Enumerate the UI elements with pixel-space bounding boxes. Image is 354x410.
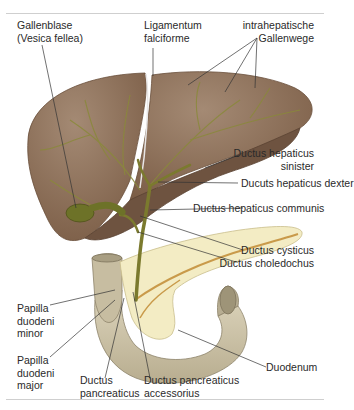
label-line: Ductus pancreaticus [144, 374, 239, 387]
label-line: Gallenblase [17, 19, 83, 32]
label-line: duodeni [17, 315, 54, 328]
label-papilla-duodeni-minor: Papilla duodeni minor [17, 302, 54, 340]
label-line: Papilla [17, 354, 54, 367]
label-line: duodeni [17, 367, 54, 380]
label-line: Ductus [80, 374, 140, 387]
label-ductus-pancreaticus: Ductus pancreaticus [80, 374, 140, 399]
label-ductus-choledochus: Ductus choledochus [219, 257, 314, 270]
label-intrahepatische-gallenwege: intrahepatische Gallenwege [243, 19, 314, 44]
label-line: major [17, 379, 54, 392]
label-ductus-cysticus: Ductus cysticus [241, 244, 314, 257]
label-line: Ligamentum [144, 19, 202, 32]
label-ligamentum-falciforme: Ligamentum falciforme [144, 19, 202, 44]
label-duodenum: Duodenum [266, 361, 317, 374]
label-gallenblase: Gallenblase (Vesica fellea) [17, 19, 83, 44]
label-line: (Vesica fellea) [17, 32, 83, 45]
label-ductus-hepaticus-communis: Ductus hepaticus communis [193, 202, 324, 215]
label-line: accessorius [144, 387, 239, 400]
label-line: sinister [233, 160, 314, 173]
label-line: intrahepatische [243, 19, 314, 32]
label-line: pancreaticus [80, 387, 140, 400]
label-line: Papilla [17, 302, 54, 315]
label-papilla-duodeni-major: Papilla duodeni major [17, 354, 54, 392]
label-line: Ductus hepaticus [233, 147, 314, 160]
label-ductus-hepaticus-sinister: Ductus hepaticus sinister [233, 147, 314, 172]
label-ductus-hepaticus-dexter: Ducuts hepaticus dexter [241, 177, 354, 190]
label-line: falciforme [144, 32, 202, 45]
label-ductus-pancreaticus-accessorius: Ductus pancreaticus accessorius [144, 374, 239, 399]
label-line: minor [17, 327, 54, 340]
label-line: Gallenwege [243, 32, 314, 45]
